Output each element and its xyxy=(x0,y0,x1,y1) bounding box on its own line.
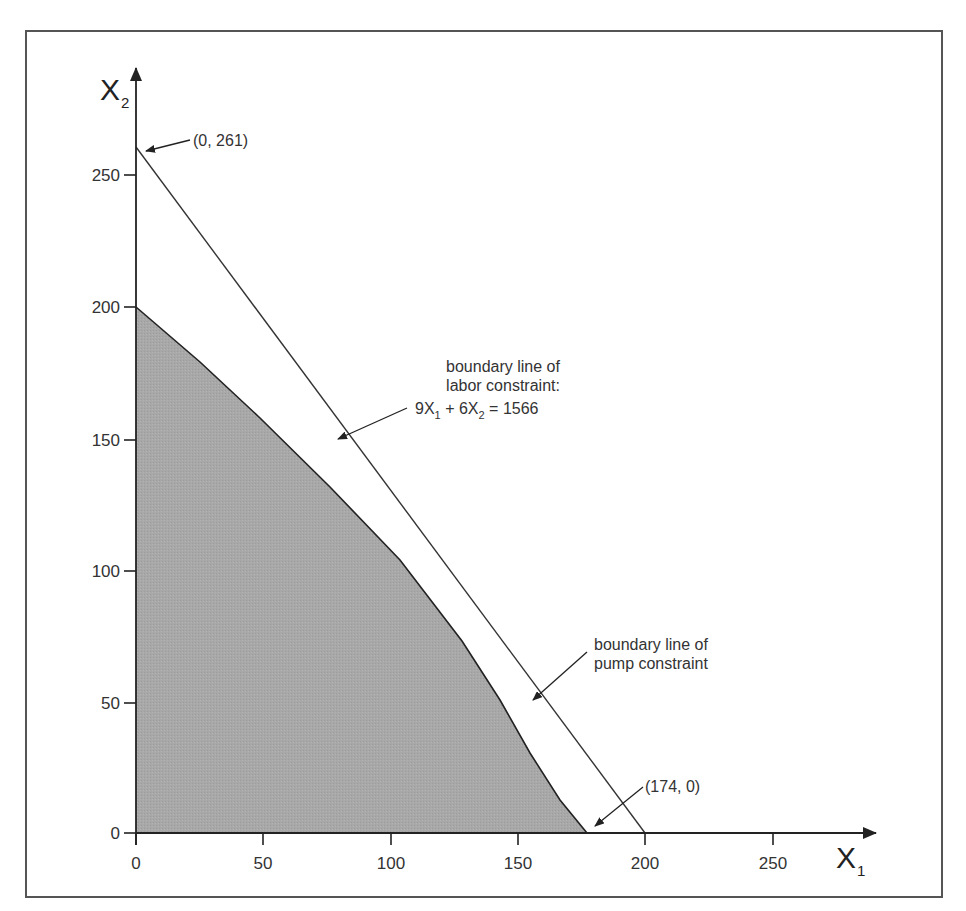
pump-arrow xyxy=(533,652,587,700)
y-ticks xyxy=(124,175,136,833)
x-tick-label: 250 xyxy=(759,854,787,873)
svg-text:2: 2 xyxy=(121,94,129,111)
x-axis-title: X 1 xyxy=(836,841,865,879)
bottom-point-label: (174, 0) xyxy=(645,778,700,795)
x-tick-label: 100 xyxy=(377,854,405,873)
top-point-label: (0, 261) xyxy=(193,132,248,149)
y-tick-label: 0 xyxy=(111,824,120,843)
y-tick-label: 200 xyxy=(92,298,120,317)
y-tick-label: 150 xyxy=(92,431,120,450)
y-axis-title: X 2 xyxy=(100,73,129,111)
y-tick-label: 50 xyxy=(101,694,120,713)
labor-label-line1: boundary line of xyxy=(446,358,560,375)
labor-label-line2: labor constraint: xyxy=(446,377,560,394)
pump-label-line1: boundary line of xyxy=(594,636,708,653)
x-tick-labels: 0 50 100 150 200 250 xyxy=(131,854,787,873)
x-tick-label: 50 xyxy=(254,854,273,873)
svg-text:X: X xyxy=(836,841,856,874)
chart-canvas: 0 50 100 150 200 250 0 50 100 150 200 25… xyxy=(0,0,966,911)
top-point-arrow xyxy=(146,140,190,151)
y-tick-label: 250 xyxy=(92,166,120,185)
y-tick-labels: 0 50 100 150 200 250 xyxy=(92,166,120,843)
labor-arrow xyxy=(338,408,407,439)
x-ticks xyxy=(136,833,773,845)
x-tick-label: 200 xyxy=(631,854,659,873)
svg-text:1: 1 xyxy=(857,862,865,879)
x-tick-label: 150 xyxy=(504,854,532,873)
y-tick-label: 100 xyxy=(92,562,120,581)
svg-text:X: X xyxy=(100,73,120,106)
pump-label-line2: pump constraint xyxy=(594,655,708,672)
labor-equation: 9X1 + 6X2 = 1566 xyxy=(415,400,539,421)
x-tick-label: 0 xyxy=(131,854,140,873)
